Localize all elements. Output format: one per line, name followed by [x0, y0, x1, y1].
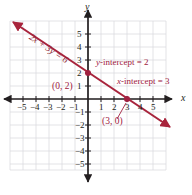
x-tick-label-5: 5 [151, 103, 156, 112]
y-tick-label-3: 3 [77, 56, 82, 65]
y-tick-label-2: 2 [77, 69, 82, 78]
y-intercept-annotation-rest: -intercept = 2 [100, 57, 149, 67]
x-intercept-point-label: (3, 0) [102, 117, 123, 127]
x-tick-label-minus-2: −2 [56, 103, 66, 112]
x-tick-label-minus-4: −4 [30, 103, 40, 112]
x-axis-label: x [181, 93, 185, 103]
y-tick-label-minus-2: −2 [75, 121, 85, 130]
x-tick-label-2: 2 [112, 103, 117, 112]
y-tick-label-4: 4 [77, 43, 82, 52]
x-intercept-annotation-rest: -intercept = 3 [121, 76, 170, 86]
x-tick-label-minus-1: −1 [69, 103, 79, 112]
x-tick-label-1: 1 [99, 103, 104, 112]
y-intercept-point-label: (0, 2) [52, 82, 73, 92]
x-tick-label-3: 3 [125, 103, 130, 112]
graph-canvas [0, 0, 192, 195]
y-intercept-annotation: y-intercept = 2 [96, 58, 149, 67]
x-tick-label-minus-3: −3 [43, 103, 53, 112]
x-intercept-annotation: x-intercept = 3 [117, 77, 170, 86]
y-tick-label-5: 5 [77, 30, 82, 39]
y-tick-label-minus-5: −5 [75, 160, 85, 169]
y-tick-label-minus-4: −4 [75, 147, 85, 156]
x-tick-label-4: 4 [138, 103, 143, 112]
x-tick-label-minus-5: −5 [17, 103, 27, 112]
y-axis-label: y [85, 2, 89, 12]
y-tick-label-1: 1 [77, 82, 82, 91]
y-tick-label-minus-3: −3 [75, 134, 85, 143]
y-intercept-point [85, 70, 91, 76]
coordinate-plane-figure: y x 5 4 3 2 1 −1 −2 −3 −4 −5 −5 −4 −3 −2… [0, 0, 192, 195]
